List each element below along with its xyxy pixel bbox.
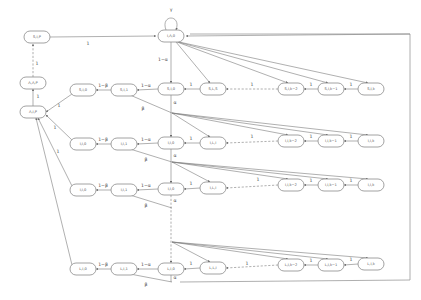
- svg-text:1: 1: [58, 103, 61, 108]
- svg-text:1: 1: [310, 134, 313, 139]
- svg-text:1: 1: [190, 261, 193, 266]
- state-node: I,I,0: [158, 137, 184, 149]
- svg-text:1: 1: [257, 177, 260, 182]
- svg-text:1: 1: [251, 134, 254, 139]
- svg-text:β: β: [145, 157, 148, 162]
- state-node: S,I,k−1: [318, 83, 344, 95]
- svg-text:α: α: [173, 153, 176, 158]
- svg-text:α: α: [173, 198, 176, 203]
- state-label: I,I,1: [121, 188, 128, 192]
- state-label: L,I,k: [367, 262, 375, 266]
- state-node: L,L,I: [200, 262, 226, 274]
- state-label: S,L,S: [209, 87, 219, 91]
- state-node: I,I,1: [111, 138, 137, 150]
- svg-text:1: 1: [310, 258, 313, 263]
- state-node: S,L,S: [200, 83, 226, 95]
- state-node: Λ,Λ,P: [20, 77, 46, 89]
- state-label: L,I,0: [79, 267, 87, 271]
- svg-text:1: 1: [87, 41, 90, 46]
- svg-text:1: 1: [350, 134, 353, 139]
- state-label: I,I,0: [80, 188, 87, 192]
- state-label: S,I,1: [120, 88, 128, 92]
- state-node: I,I,k: [358, 135, 384, 147]
- svg-text:β: β: [145, 282, 148, 287]
- state-node: I,I,0: [70, 184, 96, 196]
- state-node: S,I,0: [158, 83, 184, 95]
- state-node: L,I,1: [111, 263, 137, 275]
- state-node: L,I,0: [70, 263, 96, 275]
- nodes: S,I,PI,Λ,0Λ,Λ,PΛ,I,PS,I,0S,I,1S,I,0S,L,S…: [20, 30, 384, 275]
- state-label: Λ,I,P: [29, 110, 38, 114]
- state-node: I,L,I: [200, 137, 226, 149]
- state-label: S,I,k−2: [284, 87, 297, 91]
- state-label: S,I,0: [79, 88, 88, 92]
- svg-text:α: α: [173, 275, 176, 280]
- svg-text:1−α: 1−α: [141, 83, 151, 88]
- state-label: S,I,0: [167, 87, 176, 91]
- state-label: L,I,0: [167, 267, 175, 271]
- state-label: I,I,k−1: [325, 183, 337, 187]
- svg-text:1: 1: [36, 61, 39, 66]
- state-node: L,I,0: [158, 263, 184, 275]
- state-label: Λ,Λ,P: [28, 81, 38, 85]
- svg-text:γ: γ: [170, 7, 173, 12]
- state-label: L,I,1: [120, 267, 128, 271]
- svg-text:1−β: 1−β: [98, 137, 108, 142]
- state-node: I,I,k: [358, 179, 384, 191]
- svg-text:1−β: 1−β: [98, 262, 108, 267]
- state-node: S,I,P: [24, 31, 50, 43]
- svg-text:1: 1: [37, 94, 40, 99]
- svg-text:1−β: 1−β: [98, 183, 108, 188]
- svg-text:1: 1: [57, 149, 60, 154]
- state-node: I,L,I: [200, 182, 226, 194]
- state-label: S,I,k: [367, 87, 376, 91]
- state-label: L,I,k−2: [285, 263, 298, 267]
- state-label: S,I,P: [33, 35, 42, 39]
- state-label: I,I,k−2: [285, 139, 297, 143]
- state-label: I,I,k−1: [325, 139, 337, 143]
- state-label: I,I,0: [168, 187, 175, 191]
- edge-sip-top: [50, 36, 156, 37]
- svg-text:1: 1: [350, 257, 353, 262]
- self-loop-edge: [165, 18, 177, 30]
- state-node: I,I,1: [111, 184, 137, 196]
- svg-text:1−α: 1−α: [141, 262, 151, 267]
- svg-text:β: β: [142, 106, 145, 111]
- state-node: S,I,0: [70, 84, 96, 96]
- svg-text:α: α: [173, 100, 176, 105]
- svg-text:1−α: 1−α: [141, 137, 151, 142]
- state-node: S,I,k−2: [278, 83, 304, 95]
- state-label: I,I,1: [121, 142, 128, 146]
- state-label: I,L,I: [210, 186, 216, 190]
- svg-text:1: 1: [350, 82, 353, 87]
- state-diagram: γ 1 1 1 1−α 1−β 1−α 1 1 1 1 1 α β 1−β 1−…: [0, 0, 421, 300]
- svg-text:1: 1: [190, 82, 193, 87]
- svg-text:1: 1: [246, 261, 249, 266]
- state-node: I,I,0: [158, 183, 184, 195]
- svg-text:1: 1: [190, 136, 193, 141]
- state-node: L,I,k: [358, 258, 384, 270]
- svg-text:1: 1: [350, 178, 353, 183]
- state-label: I,I,k: [368, 183, 375, 187]
- state-node: I,I,k−1: [318, 135, 344, 147]
- state-node: S,I,1: [111, 84, 137, 96]
- state-node: I,Λ,0: [158, 30, 184, 42]
- state-node: Λ,I,P: [20, 106, 46, 118]
- svg-text:1: 1: [190, 181, 193, 186]
- state-node: I,I,k−2: [278, 179, 304, 191]
- state-node: I,I,0: [70, 138, 96, 150]
- state-label: I,I,0: [80, 142, 87, 146]
- state-node: S,I,k: [358, 83, 384, 95]
- state-node: L,I,k−2: [278, 259, 304, 271]
- state-label: I,L,I: [210, 141, 216, 145]
- state-label: I,I,k−2: [285, 183, 297, 187]
- svg-text:1−β: 1−β: [98, 83, 108, 88]
- state-node: L,I,k−1: [318, 259, 344, 271]
- svg-text:1−α: 1−α: [158, 57, 168, 62]
- svg-text:1: 1: [251, 82, 254, 87]
- state-label: I,I,0: [168, 141, 175, 145]
- svg-text:β: β: [145, 203, 148, 208]
- state-label: I,Λ,0: [167, 34, 176, 38]
- svg-text:1−α: 1−α: [141, 183, 151, 188]
- frame-lines: [180, 34, 410, 282]
